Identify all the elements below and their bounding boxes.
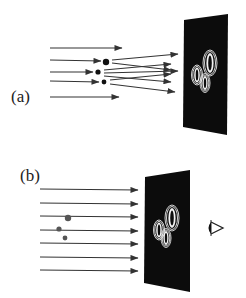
illumination-ray <box>40 203 138 204</box>
panel-b: (b) <box>20 166 223 292</box>
illumination-ray <box>40 230 138 231</box>
holography-diagram: (a) <box>0 0 246 298</box>
illumination-ray <box>40 243 138 244</box>
illumination-ray <box>40 257 138 258</box>
object-point <box>102 80 107 85</box>
illumination-ray <box>40 189 138 190</box>
incident-ray <box>50 60 101 61</box>
virtual-object-point <box>65 215 71 221</box>
scattered-ray <box>112 54 178 60</box>
panel-a-label: (a) <box>11 87 30 106</box>
object-point <box>103 59 109 65</box>
illumination-ray <box>40 270 138 271</box>
hologram-plate-b <box>144 170 190 292</box>
panel-b-label: (b) <box>20 166 40 185</box>
incident-ray <box>50 81 99 82</box>
eye-icon <box>209 220 224 236</box>
panel-a: (a) <box>11 14 228 135</box>
hologram-plate-a <box>183 14 228 135</box>
object-point <box>95 69 100 74</box>
illumination-ray <box>40 216 138 217</box>
scattered-ray <box>104 71 178 73</box>
virtual-object-point <box>56 226 61 231</box>
scattered-ray <box>110 84 175 92</box>
virtual-object-point <box>63 236 68 241</box>
